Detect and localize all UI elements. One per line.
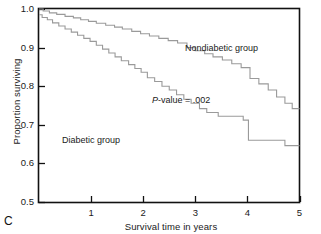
x-tick-label: 1 — [84, 207, 98, 218]
diabetic-group-label: Diabetic group — [62, 135, 120, 145]
x-axis-ticks — [92, 196, 301, 202]
survival-curve — [39, 15, 300, 146]
x-tick-label: 3 — [188, 207, 202, 218]
nondiabetic-group-label: Nondiabetic group — [185, 43, 258, 53]
y-tick-label: 1.0 — [8, 3, 34, 14]
x-axis-title: Survival time in years — [40, 221, 302, 232]
p-value-label: P-value = .002 — [152, 95, 210, 105]
x-tick-label: 2 — [136, 207, 150, 218]
y-tick-label: 0.5 — [8, 196, 34, 207]
x-tick-label: 5 — [293, 207, 307, 218]
panel-letter: C — [4, 214, 13, 228]
plot-canvas — [0, 0, 321, 234]
x-tick-label: 4 — [240, 207, 254, 218]
y-axis-title: Proportion surviving — [11, 42, 22, 162]
survival-chart-figure: 0.5 0.6 0.7 0.8 0.9 1.0 1 2 3 4 5 Propor… — [0, 0, 321, 234]
plot-frame — [39, 9, 300, 203]
survival-curve — [39, 9, 300, 109]
y-axis-ticks — [39, 10, 45, 203]
survival-curves — [39, 9, 300, 146]
